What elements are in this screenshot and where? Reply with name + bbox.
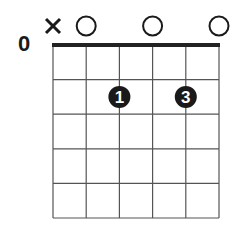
open-string-icon — [77, 17, 96, 36]
finger-number: 1 — [115, 88, 124, 107]
chord-diagram: 13 — [0, 0, 241, 233]
finger-dot: 3 — [175, 86, 197, 108]
muted-string-icon — [46, 19, 60, 33]
fretboard-grid — [52, 45, 220, 218]
string-markers — [46, 17, 229, 36]
open-string-icon — [210, 17, 229, 36]
open-string-icon — [143, 17, 162, 36]
finger-number: 3 — [181, 88, 190, 107]
finger-dot: 1 — [108, 86, 130, 108]
